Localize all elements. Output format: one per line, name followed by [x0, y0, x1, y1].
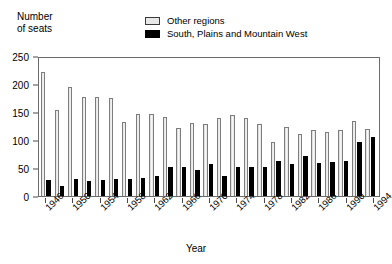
bar-south-plains-mountain-west — [209, 164, 213, 196]
y-tick-mark — [33, 57, 38, 58]
bar-other-regions — [41, 72, 45, 196]
bar-pair — [163, 58, 177, 196]
bar-other-regions — [365, 129, 369, 196]
bar-south-plains-mountain-west — [263, 167, 267, 196]
y-axis-title: Number of seats — [17, 11, 53, 34]
bar-other-regions — [176, 128, 180, 196]
bar-other-regions — [217, 118, 221, 196]
bar-pair — [271, 58, 285, 196]
bar-other-regions — [230, 115, 234, 196]
y-tick-mark — [33, 113, 38, 114]
bar-pair — [298, 58, 312, 196]
bar-south-plains-mountain-west — [344, 161, 348, 196]
bar-pair — [122, 58, 136, 196]
bar-south-plains-mountain-west — [290, 164, 294, 196]
bar-other-regions — [163, 117, 167, 196]
bar-south-plains-mountain-west — [371, 137, 375, 196]
south-plains-mountain-west-swatch-icon — [145, 30, 160, 38]
bar-south-plains-mountain-west — [74, 179, 78, 196]
bar-pair — [257, 58, 271, 196]
bar-other-regions — [122, 122, 126, 196]
bar-other-regions — [109, 98, 113, 196]
bar-group-container — [39, 58, 379, 196]
bar-pair — [41, 58, 55, 196]
bar-south-plains-mountain-west — [101, 180, 105, 196]
bar-other-regions — [352, 121, 356, 196]
x-axis-title: Year — [0, 243, 392, 254]
bar-pair — [325, 58, 339, 196]
bar-other-regions — [257, 124, 261, 196]
bar-other-regions — [298, 134, 302, 196]
bar-pair — [203, 58, 217, 196]
plot-area — [38, 57, 380, 197]
bar-other-regions — [203, 124, 207, 196]
bar-other-regions — [311, 130, 315, 196]
bar-other-regions — [95, 97, 99, 196]
bar-other-regions — [82, 97, 86, 196]
bar-pair — [230, 58, 244, 196]
bar-pair — [55, 58, 69, 196]
bar-other-regions — [244, 118, 248, 196]
bar-pair — [244, 58, 258, 196]
bar-other-regions — [338, 130, 342, 196]
bar-south-plains-mountain-west — [46, 180, 50, 196]
bar-south-plains-mountain-west — [317, 163, 321, 196]
bar-other-regions — [68, 87, 72, 196]
bar-pair — [217, 58, 231, 196]
y-tick-mark — [33, 141, 38, 142]
bar-south-plains-mountain-west — [182, 167, 186, 196]
bar-pair — [352, 58, 366, 196]
bar-other-regions — [190, 123, 194, 196]
bar-other-regions — [271, 142, 275, 196]
bar-pair — [338, 58, 352, 196]
other-regions-swatch-icon — [145, 17, 160, 25]
bar-other-regions — [136, 114, 140, 196]
bar-pair — [365, 58, 379, 196]
plot-inner — [39, 58, 379, 196]
bar-other-regions — [149, 114, 153, 196]
legend-item-other-regions: Other regions — [145, 14, 307, 27]
legend-label-south-plains-mountain-west: South, Plains and Mountain West — [167, 28, 307, 39]
bar-pair — [149, 58, 163, 196]
bar-other-regions — [284, 127, 288, 196]
legend-item-south-plains-mountain-west: South, Plains and Mountain West — [145, 27, 307, 40]
bar-pair — [68, 58, 82, 196]
y-tick-mark — [33, 169, 38, 170]
bar-pair — [136, 58, 150, 196]
y-tick-mark — [33, 197, 38, 198]
bar-pair — [284, 58, 298, 196]
legend-label-other-regions: Other regions — [167, 15, 225, 26]
bar-pair — [95, 58, 109, 196]
bar-south-plains-mountain-west — [155, 176, 159, 196]
bar-pair — [311, 58, 325, 196]
bar-south-plains-mountain-west — [357, 142, 361, 196]
bar-south-plains-mountain-west — [128, 179, 132, 196]
bar-pair — [82, 58, 96, 196]
y-tick-mark — [33, 85, 38, 86]
bar-other-regions — [55, 110, 59, 196]
bar-pair — [190, 58, 204, 196]
bar-pair — [109, 58, 123, 196]
bar-chart: Number of seats Other regions South, Pla… — [0, 0, 392, 264]
bar-other-regions — [325, 132, 329, 196]
chart-legend: Other regions South, Plains and Mountain… — [145, 14, 307, 40]
bar-south-plains-mountain-west — [236, 167, 240, 196]
bar-pair — [176, 58, 190, 196]
